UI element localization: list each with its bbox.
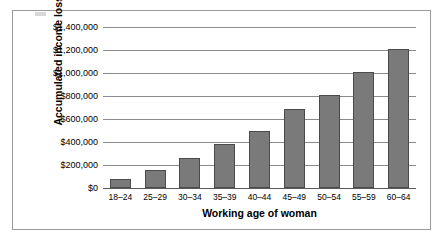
x-axis-tick-label: 45–49	[282, 192, 306, 202]
x-axis-tick-label: 55–59	[352, 192, 376, 202]
y-axis-tick-label: $400,000	[60, 137, 98, 147]
bar	[319, 95, 340, 188]
bar	[179, 158, 200, 188]
scan-artifact	[35, 12, 46, 16]
bar	[214, 144, 235, 188]
y-axis-tick-label: $1,200,000	[53, 45, 98, 55]
x-axis-tick-label: 18–24	[109, 192, 133, 202]
bar	[353, 72, 374, 188]
x-axis-tick-label: 50–54	[317, 192, 341, 202]
bar	[249, 131, 270, 189]
bar	[284, 109, 305, 188]
y-axis-tick-label: $1,000,000	[53, 68, 98, 78]
chart-frame: Accumulated income losses $0$200,000$400…	[12, 10, 431, 230]
bar	[388, 49, 409, 188]
x-axis-tick-label: 35–39	[213, 192, 237, 202]
x-axis-tick-label: 30–34	[178, 192, 202, 202]
y-axis-tick-label: $600,000	[60, 114, 98, 124]
x-axis-title: Working age of woman	[103, 207, 416, 219]
axis-baseline	[103, 188, 416, 189]
bar	[145, 170, 166, 188]
x-axis-tick-label: 40–44	[248, 192, 272, 202]
plot-area: $0$200,000$400,000$600,000$800,000$1,000…	[103, 27, 416, 188]
y-axis-tick-label: $0	[88, 183, 98, 193]
bars-group	[103, 27, 416, 188]
x-axis-tick-label: 25–29	[143, 192, 167, 202]
x-axis-tick-label: 60–64	[387, 192, 411, 202]
bar	[110, 179, 131, 188]
y-axis-tick-label: $800,000	[60, 91, 98, 101]
y-axis-tick-label: $1,400,000	[53, 22, 98, 32]
y-axis-tick-label: $200,000	[60, 160, 98, 170]
y-axis-title: Accumulated income losses	[52, 0, 64, 130]
